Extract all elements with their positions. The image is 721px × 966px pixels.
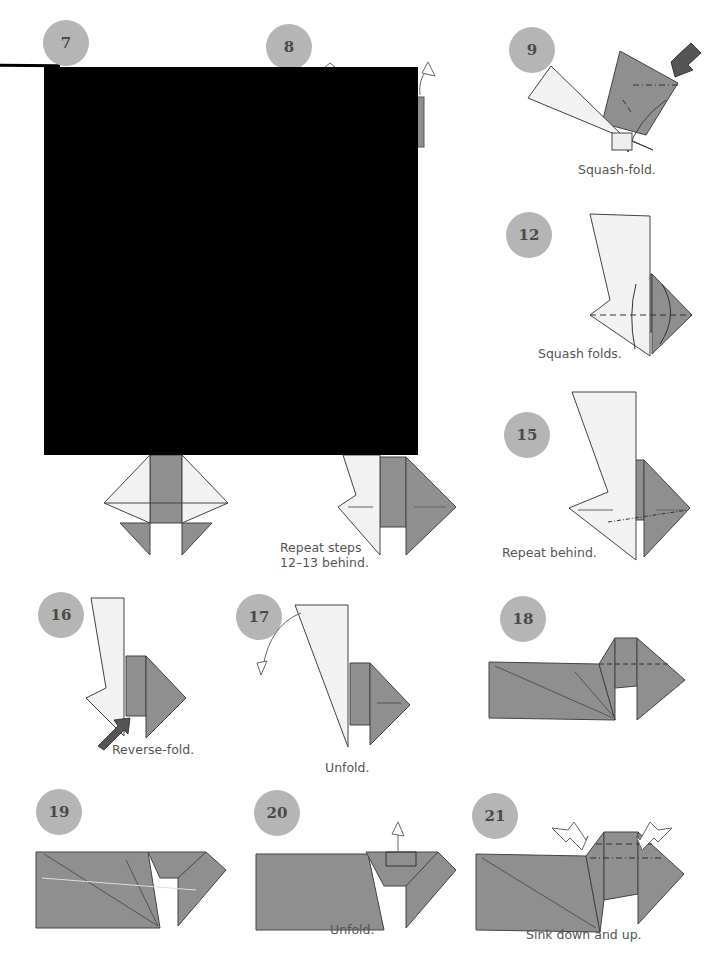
step-number: 18 [513, 610, 534, 628]
step-number: 20 [267, 804, 288, 822]
step-17-diagram [255, 605, 435, 755]
step-17-caption: Unfold. [325, 760, 370, 775]
step-16-badge: 16 [38, 592, 84, 638]
step-18-diagram [487, 638, 687, 724]
step-15-caption: Repeat behind. [502, 545, 597, 560]
step-20-diagram [256, 824, 456, 934]
step-number: 15 [517, 426, 538, 444]
step-19-diagram [36, 850, 236, 930]
step-12-badge: 12 [506, 212, 552, 258]
step-16-diagram [96, 598, 216, 748]
step-number: 19 [49, 803, 70, 821]
step-15-badge: 15 [504, 412, 550, 458]
step-12-caption: Squash folds. [538, 346, 622, 361]
step-13-diagram [100, 455, 220, 555]
step-number: 16 [51, 606, 72, 624]
step-19-badge: 19 [36, 789, 82, 835]
step-8-badge: 8 [266, 24, 312, 70]
step-20-caption: Unfold. [330, 922, 375, 937]
step-7-badge: 7 [43, 20, 89, 66]
step-21-diagram [474, 828, 704, 938]
step-15-diagram [568, 392, 718, 562]
step-number: 8 [284, 38, 294, 56]
step-12-diagram [590, 204, 720, 360]
redaction-block [44, 67, 418, 455]
step-9-diagram [528, 45, 718, 155]
step-number: 12 [519, 226, 540, 244]
step-18-badge: 18 [500, 596, 546, 642]
step-9-caption: Squash-fold. [578, 162, 656, 177]
step-16-caption: Reverse-fold. [112, 742, 194, 757]
step-number: 21 [485, 807, 506, 825]
step-21-caption: Sink down and up. [526, 927, 642, 942]
step-14-caption: Repeat steps 12–13 behind. [280, 540, 369, 570]
step-number: 7 [61, 34, 71, 52]
